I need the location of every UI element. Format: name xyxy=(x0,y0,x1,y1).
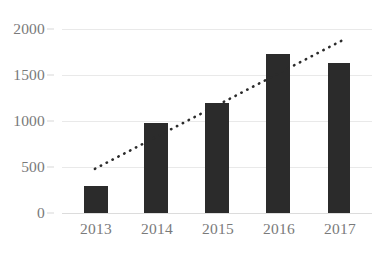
x-tick-label-2013: 2013 xyxy=(80,221,112,237)
y-tick-label-500: 500 xyxy=(21,159,45,175)
x-tick-label-2017: 2017 xyxy=(324,221,356,237)
plot-area xyxy=(62,29,372,213)
y-tick-label-1500: 1500 xyxy=(13,67,45,83)
y-tick-label-2000: 2000 xyxy=(13,21,45,37)
x-tick-label-2016: 2016 xyxy=(263,221,295,237)
bar-chart: 2000 1500 1000 500 0 2013 2014 2015 2016… xyxy=(0,0,390,255)
bar-2015 xyxy=(205,103,229,213)
gridline-2000 xyxy=(62,29,372,30)
x-tick-label-2015: 2015 xyxy=(202,221,234,237)
y-tick-dash-0 xyxy=(47,213,54,214)
bar-2013 xyxy=(84,186,108,213)
y-tick-label-0: 0 xyxy=(37,205,45,221)
y-axis: 2000 1500 1000 500 0 xyxy=(0,0,55,255)
y-tick-label-1000: 1000 xyxy=(13,113,45,129)
bar-2014 xyxy=(144,123,168,213)
y-tick-dash-500 xyxy=(47,167,54,168)
x-tick-label-2014: 2014 xyxy=(141,221,173,237)
y-tick-dash-2000 xyxy=(47,29,54,30)
gridline-0-baseline xyxy=(62,213,372,214)
bar-2016 xyxy=(266,54,290,213)
y-tick-dash-1000 xyxy=(47,121,54,122)
bar-2017 xyxy=(328,63,350,213)
y-tick-dash-1500 xyxy=(47,75,54,76)
x-axis: 2013 2014 2015 2016 2017 xyxy=(62,221,372,249)
gridline-1500 xyxy=(62,75,372,76)
